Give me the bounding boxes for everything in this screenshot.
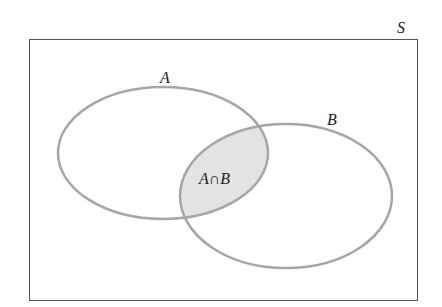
set-b-label: B	[327, 111, 337, 128]
venn-diagram: S A B A∩B	[0, 0, 442, 307]
set-a-label: A	[159, 69, 170, 86]
universe-label: S	[397, 19, 405, 36]
intersection-label: A∩B	[198, 170, 230, 187]
